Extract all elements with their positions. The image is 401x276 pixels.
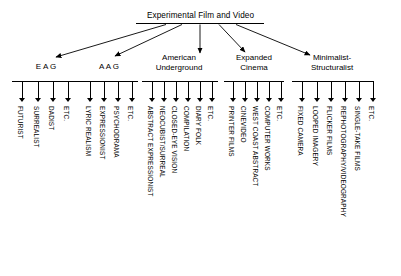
group-underline-american-underground <box>142 81 218 82</box>
root-underline <box>136 23 264 24</box>
leaf-stem <box>373 81 374 98</box>
leaf-label: DIARY FOLK <box>194 106 200 145</box>
leaf-label: ETC. <box>126 106 132 121</box>
leaf-stem <box>53 81 54 98</box>
group-label-line: Underground <box>140 63 218 73</box>
leaf-label: DADIST <box>47 106 53 130</box>
leaf-arrowhead <box>87 98 93 102</box>
group-label-line: A A G <box>78 62 140 72</box>
group-label-line: Expanded <box>222 53 286 63</box>
leaf-stem <box>331 81 332 98</box>
group-label-line: Minimalist- <box>290 53 374 63</box>
group-label-line: American <box>140 53 218 63</box>
leaf-stem <box>257 81 258 98</box>
leaf-label: COMPUTER WORKS <box>263 106 269 171</box>
leaf-arrowhead <box>197 98 203 102</box>
leaf-stem <box>269 81 270 98</box>
leaf-arrowhead <box>209 98 215 102</box>
leaf-arrowhead <box>356 98 362 102</box>
leaf-arrowhead <box>278 98 284 102</box>
leaf-stem <box>22 81 23 98</box>
leaf-arrowhead <box>50 98 56 102</box>
leaf-label: SINGLE-TAKE FILMS <box>353 106 359 171</box>
leaf-stem <box>38 81 39 98</box>
leaf-label: PRINTER FILMS <box>227 106 233 157</box>
group-header-expanded-cinema: Expanded Cinema <box>222 53 286 72</box>
leaf-label: REPHOTOGRAPHY/VIDEOGRAPHY <box>339 106 345 217</box>
leaf-arrowhead <box>299 98 305 102</box>
leaf-stem <box>132 81 133 98</box>
leaf-label: ETC. <box>275 106 281 121</box>
leaf-arrowhead <box>242 98 248 102</box>
leaf-arrowhead <box>185 98 191 102</box>
leaf-stem <box>317 81 318 98</box>
leaf-stem <box>345 81 346 98</box>
leaf-label: SURREALIST <box>32 106 38 148</box>
group-label-line: E A G <box>10 62 82 72</box>
leaf-label: ETC. <box>206 106 212 121</box>
leaf-arrowhead <box>173 98 179 102</box>
group-header-minimalist-structuralist: Minimalist- Structuralist <box>290 53 374 72</box>
leaf-label: COMPILATION <box>182 106 188 151</box>
leaf-arrowhead <box>314 98 320 102</box>
leaf-label: FLICKER FILMS <box>325 106 331 156</box>
leaf-label: FUTURIST <box>16 106 22 139</box>
group-header-eag: E A G <box>10 62 82 72</box>
leaf-label: ETC. <box>62 106 68 121</box>
root-node-label: Experimental Film and Video <box>0 11 401 21</box>
leaf-stem <box>245 81 246 98</box>
leaf-arrowhead <box>342 98 348 102</box>
leaf-arrowhead <box>129 98 135 102</box>
leaf-stem <box>118 81 119 98</box>
leaf-stem <box>104 81 105 98</box>
leaf-arrowhead <box>115 98 121 102</box>
leaf-stem <box>176 81 177 98</box>
leaf-arrowhead <box>35 98 41 102</box>
leaf-arrowhead <box>254 98 260 102</box>
tree-diagram: Experimental Film and Video E A G A A G … <box>0 0 401 276</box>
leaf-arrowhead <box>149 98 155 102</box>
leaf-stem <box>233 81 234 98</box>
leaf-stem <box>68 81 69 98</box>
leaf-stem <box>212 81 213 98</box>
leaf-label: WEST COAST ABSTRACT <box>251 106 257 186</box>
leaf-label: ABSTRACT EXPRESSIONIST <box>146 106 152 197</box>
leaf-stem <box>200 81 201 98</box>
leaf-label: FIXED CAMERA <box>296 106 302 156</box>
group-header-american-underground: American Underground <box>140 53 218 72</box>
group-underline-minimalist-structuralist <box>292 81 374 82</box>
leaf-arrowhead <box>328 98 334 102</box>
leaf-stem <box>302 81 303 98</box>
leaf-label: LOOPED IMAGERY <box>311 106 317 166</box>
leaf-stem <box>164 81 165 98</box>
leaf-stem <box>188 81 189 98</box>
leaf-stem <box>359 81 360 98</box>
leaf-label: NEOCUBIST/SURREAL <box>158 106 164 178</box>
leaf-label: EXPRESSIONIST <box>98 106 104 159</box>
group-header-aag: A A G <box>78 62 140 72</box>
leaf-arrowhead <box>101 98 107 102</box>
leaf-label: CINEVIDEO <box>239 106 245 143</box>
group-underline-aag <box>80 81 138 82</box>
leaf-stem <box>281 81 282 98</box>
leaf-label: ETC. <box>367 106 373 121</box>
leaf-arrowhead <box>19 98 25 102</box>
group-label-line: Cinema <box>222 63 286 73</box>
leaf-label: CLOSED-EYE VISION <box>170 106 176 173</box>
leaf-arrowhead <box>266 98 272 102</box>
leaf-stem <box>90 81 91 98</box>
leaf-label: PSYCHODRAMA <box>112 106 118 158</box>
leaf-arrowhead <box>370 98 376 102</box>
leaf-stem <box>152 81 153 98</box>
group-label-line: Structuralist <box>290 63 374 73</box>
leaf-arrowhead <box>161 98 167 102</box>
leaf-arrowhead <box>65 98 71 102</box>
leaf-label: LYRIC REALISM <box>84 106 90 156</box>
leaf-arrowhead <box>230 98 236 102</box>
